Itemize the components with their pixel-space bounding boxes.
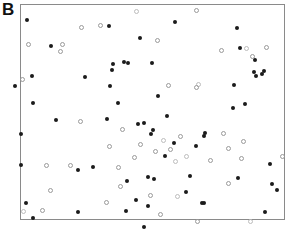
data-point: [13, 84, 17, 88]
plot-frame: [20, 4, 285, 220]
scatter-plot-figure: B: [0, 0, 290, 232]
data-point: [142, 225, 146, 229]
panel-label: B: [2, 0, 14, 19]
